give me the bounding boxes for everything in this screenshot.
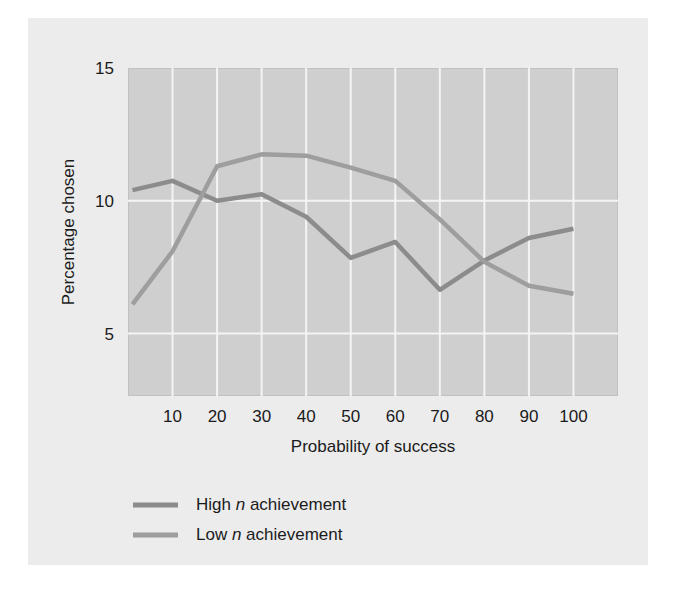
chart-legend: High n achievementLow n achievement xyxy=(133,495,347,544)
x-tick-label: 70 xyxy=(430,407,449,426)
x-tick-label: 30 xyxy=(252,407,271,426)
y-tick-label: 10 xyxy=(95,192,114,211)
x-tick-label: 20 xyxy=(208,407,227,426)
line-chart: 102030405060708090100 51015 Probability … xyxy=(0,0,677,591)
y-tick-label: 15 xyxy=(95,59,114,78)
x-tick-label: 90 xyxy=(519,407,538,426)
y-axis-tick-labels: 51015 xyxy=(95,59,114,344)
chart-figure: 102030405060708090100 51015 Probability … xyxy=(0,0,677,591)
legend-label: High n achievement xyxy=(196,495,347,514)
x-axis-title: Probability of success xyxy=(291,437,455,456)
x-tick-label: 100 xyxy=(559,407,587,426)
x-tick-label: 80 xyxy=(475,407,494,426)
legend-label: Low n achievement xyxy=(196,525,343,544)
y-axis-title: Percentage chosen xyxy=(59,159,78,306)
x-axis-tick-labels: 102030405060708090100 xyxy=(163,407,588,426)
x-tick-label: 10 xyxy=(163,407,182,426)
x-tick-label: 40 xyxy=(297,407,316,426)
x-tick-label: 50 xyxy=(341,407,360,426)
y-tick-label: 5 xyxy=(105,325,114,344)
x-tick-label: 60 xyxy=(386,407,405,426)
plot-area-background xyxy=(128,68,618,396)
